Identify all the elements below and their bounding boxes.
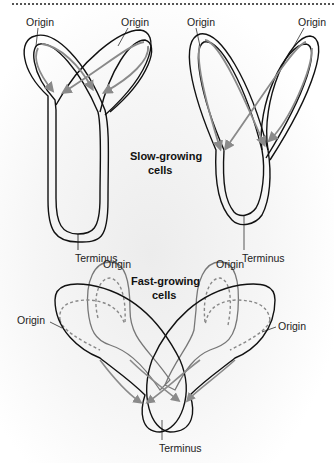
slow-right-chromosome <box>189 34 318 225</box>
slow-right-origin-right-label: Origin <box>298 16 326 28</box>
fast-arrows <box>100 360 235 402</box>
slow-growing-title-line1: Slow-growing <box>130 150 202 162</box>
slow-left-origin-right-label: Origin <box>121 16 149 28</box>
fast-origin-top-right-label: Origin <box>216 258 244 270</box>
fast-origin-top-left-label: Origin <box>103 258 131 270</box>
fast-origin-right-label: Origin <box>278 320 306 332</box>
fast-growing-title-line1: Fast-growing <box>131 275 200 287</box>
slow-right-terminus-label: Terminus <box>242 252 285 264</box>
fast-growing-title-line2: cells <box>152 289 176 301</box>
slow-left-arrows <box>36 42 148 92</box>
slow-right-arrows <box>199 40 312 148</box>
fast-origin-left-label: Origin <box>17 314 45 326</box>
slow-growing-title-line2: cells <box>148 164 172 176</box>
fast-terminus-label: Terminus <box>159 442 202 454</box>
slow-left-origin-left-label: Origin <box>26 16 54 28</box>
slow-left-chromosome <box>24 30 151 242</box>
replication-diagram: Origin Origin Terminus Origin Origin Ter… <box>0 0 334 463</box>
slow-right-origin-left-label: Origin <box>187 16 215 28</box>
